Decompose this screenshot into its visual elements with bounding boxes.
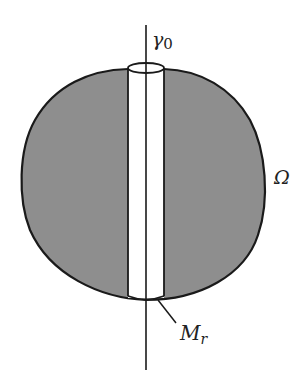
tube-label-leader	[158, 300, 176, 323]
tube-label: Mr	[179, 321, 208, 347]
region-label: Ω	[273, 166, 290, 188]
diagram-canvas: γ0 Ω Mr	[0, 0, 306, 389]
axis-label: γ0	[152, 28, 173, 53]
